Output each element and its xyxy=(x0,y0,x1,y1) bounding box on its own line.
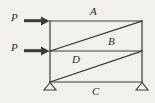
label-load-middle: P xyxy=(11,42,18,53)
lower-diagonal-member xyxy=(50,51,142,82)
load-arrow-top-icon xyxy=(24,17,50,26)
frame-diagram-svg xyxy=(0,0,155,103)
upper-diagonal-member xyxy=(50,21,142,51)
load-arrows xyxy=(24,17,50,56)
label-lower-diagonal: D xyxy=(72,54,80,65)
pin-support-right-icon xyxy=(136,83,148,91)
label-upper-diagonal: B xyxy=(108,36,115,47)
label-top-chord: A xyxy=(90,6,97,17)
pin-support-left-icon xyxy=(44,83,56,91)
frame-members xyxy=(50,21,142,82)
label-bottom-chord: C xyxy=(92,86,99,97)
structural-frame-figure: A B D C P P xyxy=(0,0,155,103)
label-load-top: P xyxy=(11,12,18,23)
load-arrow-middle-icon xyxy=(24,47,50,56)
